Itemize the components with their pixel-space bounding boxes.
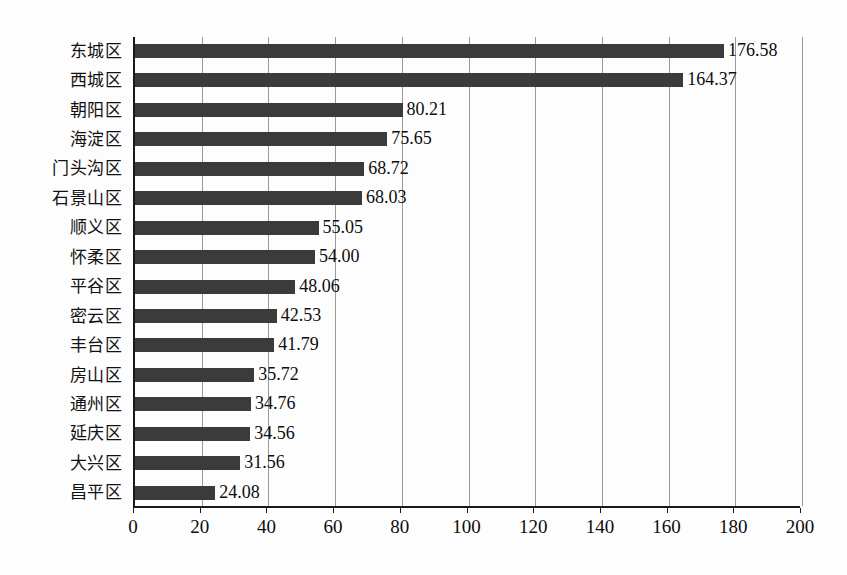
bar-value-label: 68.03 xyxy=(366,187,407,207)
category-label: 昌平区 xyxy=(0,484,122,501)
category-label: 丰台区 xyxy=(0,337,122,354)
category-label: 怀柔区 xyxy=(0,249,122,266)
x-tick-label: 60 xyxy=(324,516,343,538)
x-tick-mark xyxy=(200,508,201,513)
bar[interactable] xyxy=(135,191,362,205)
bar-row: 176.58 xyxy=(135,37,802,66)
bar[interactable] xyxy=(135,44,724,58)
bar[interactable] xyxy=(135,338,274,352)
bar[interactable] xyxy=(135,103,403,117)
bar[interactable] xyxy=(135,368,254,382)
bar-value-label: 34.76 xyxy=(255,393,296,413)
bar-row: 80.21 xyxy=(135,96,802,125)
x-tick-label: 140 xyxy=(586,516,615,538)
x-tick-mark xyxy=(467,508,468,513)
x-tick-mark xyxy=(266,508,267,513)
bar-value-label: 34.56 xyxy=(254,423,295,443)
x-tick-mark xyxy=(333,508,334,513)
category-label: 顺义区 xyxy=(0,219,122,236)
bar-row: 54.00 xyxy=(135,243,802,272)
category-label: 石景山区 xyxy=(0,190,122,207)
bar-row: 35.72 xyxy=(135,361,802,390)
bar-value-label: 54.00 xyxy=(319,246,360,266)
bar-value-label: 42.53 xyxy=(281,305,322,325)
category-label: 东城区 xyxy=(0,43,122,60)
bar-chart: 东城区西城区朝阳区海淀区门头沟区石景山区顺义区怀柔区平谷区密云区丰台区房山区通州… xyxy=(0,0,847,575)
x-tick-mark xyxy=(800,508,801,513)
category-label: 西城区 xyxy=(0,72,122,89)
x-tick-mark xyxy=(533,508,534,513)
category-label: 海淀区 xyxy=(0,131,122,148)
x-tick-label: 40 xyxy=(257,516,276,538)
x-tick-label: 160 xyxy=(652,516,681,538)
x-tick-label: 20 xyxy=(190,516,209,538)
gridline xyxy=(802,37,803,506)
bar-row: 34.76 xyxy=(135,390,802,419)
category-label: 朝阳区 xyxy=(0,102,122,119)
x-tick-label: 180 xyxy=(719,516,748,538)
x-tick-label: 120 xyxy=(519,516,548,538)
bar-row: 42.53 xyxy=(135,302,802,331)
bar[interactable] xyxy=(135,456,240,470)
bar[interactable] xyxy=(135,250,315,264)
bar-value-label: 164.37 xyxy=(687,69,737,89)
category-axis-labels: 东城区西城区朝阳区海淀区门头沟区石景山区顺义区怀柔区平谷区密云区丰台区房山区通州… xyxy=(0,37,128,508)
category-label: 门头沟区 xyxy=(0,160,122,177)
bar-row: 48.06 xyxy=(135,273,802,302)
bar-value-label: 41.79 xyxy=(278,334,319,354)
x-tick-label: 80 xyxy=(390,516,409,538)
x-tick-label: 200 xyxy=(786,516,815,538)
bar[interactable] xyxy=(135,397,251,411)
category-label: 密云区 xyxy=(0,308,122,325)
x-tick-label: 100 xyxy=(452,516,481,538)
category-label: 平谷区 xyxy=(0,278,122,295)
bar-row: 75.65 xyxy=(135,125,802,154)
bar[interactable] xyxy=(135,162,364,176)
bar-row: 164.37 xyxy=(135,66,802,95)
category-label: 延庆区 xyxy=(0,425,122,442)
bar-value-label: 48.06 xyxy=(299,276,340,296)
x-tick-label: 0 xyxy=(128,516,138,538)
bar-row: 34.56 xyxy=(135,420,802,449)
x-tick-mark xyxy=(733,508,734,513)
category-label: 房山区 xyxy=(0,367,122,384)
bar-value-label: 24.08 xyxy=(219,482,260,502)
bar-value-label: 75.65 xyxy=(391,128,432,148)
bar-value-label: 176.58 xyxy=(728,40,778,60)
bar-value-label: 31.56 xyxy=(244,452,285,472)
bar-row: 55.05 xyxy=(135,214,802,243)
bar[interactable] xyxy=(135,427,250,441)
category-label: 通州区 xyxy=(0,396,122,413)
x-tick-mark xyxy=(133,508,134,513)
category-label: 大兴区 xyxy=(0,455,122,472)
x-tick-mark xyxy=(600,508,601,513)
bar-value-label: 68.72 xyxy=(368,158,409,178)
bar-row: 31.56 xyxy=(135,449,802,478)
bar-row: 41.79 xyxy=(135,331,802,360)
bar[interactable] xyxy=(135,280,295,294)
bar-row: 24.08 xyxy=(135,479,802,508)
bar[interactable] xyxy=(135,309,277,323)
bar-value-label: 35.72 xyxy=(258,364,299,384)
bar[interactable] xyxy=(135,73,683,87)
bar-row: 68.72 xyxy=(135,155,802,184)
plot-area: 176.58164.3780.2175.6568.7268.0355.0554.… xyxy=(133,37,800,508)
bar-row: 68.03 xyxy=(135,184,802,213)
bar-value-label: 55.05 xyxy=(323,217,364,237)
x-tick-mark xyxy=(400,508,401,513)
bar[interactable] xyxy=(135,486,215,500)
x-tick-mark xyxy=(667,508,668,513)
bar-value-label: 80.21 xyxy=(407,99,448,119)
bar[interactable] xyxy=(135,132,387,146)
bar[interactable] xyxy=(135,221,319,235)
